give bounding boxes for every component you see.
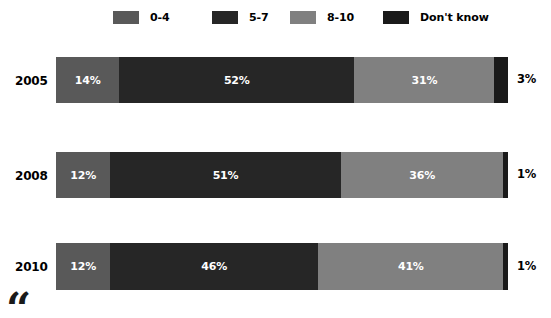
- bar-segment-2010-5-7: 46%: [110, 243, 318, 290]
- bar-segment-2010-8-10: 41%: [318, 243, 503, 290]
- bar-segment-label-outside: 3%: [517, 74, 536, 86]
- bar-track-2008: 12% 51% 36% 1%: [56, 152, 508, 198]
- bar-segment-label: 14%: [75, 75, 101, 86]
- bar-segment-label: 31%: [411, 75, 437, 86]
- bar-segment-2005-5-7: 52%: [119, 57, 354, 103]
- bar-segment-label: 41%: [398, 261, 424, 272]
- bar-track-2010: 12% 46% 41% 1%: [56, 243, 508, 290]
- bar-segment-label-outside: 1%: [517, 261, 536, 273]
- bar-segment-label: 36%: [409, 170, 435, 181]
- bar-row-label-2010: 2010: [15, 260, 48, 274]
- bar-segment-2005-0-4: 14%: [56, 57, 119, 103]
- quotation-mark-icon: “: [6, 288, 31, 318]
- bar-segment-label: 51%: [213, 170, 239, 181]
- bar-segment-label-outside: 1%: [517, 169, 536, 181]
- bar-segment-2008-8-10: 36%: [341, 152, 504, 198]
- bar-segment-label: 46%: [201, 261, 227, 272]
- bar-segment-label: 12%: [70, 261, 96, 272]
- bar-segment-2008-dont-know: 1%: [503, 152, 508, 198]
- stacked-bar-chart: 2005 14% 52% 31% 3% 2008 12% 51%: [0, 0, 551, 318]
- bar-segment-2010-dont-know: 1%: [503, 243, 508, 290]
- bar-segment-label: 12%: [70, 170, 96, 181]
- bar-segment-label: 52%: [224, 75, 250, 86]
- bar-segment-2008-5-7: 51%: [110, 152, 341, 198]
- bar-row-label-2005: 2005: [15, 74, 48, 88]
- bar-segment-2005-dont-know: 3%: [494, 57, 508, 103]
- bar-segment-2005-8-10: 31%: [354, 57, 494, 103]
- bar-track-2005: 14% 52% 31% 3%: [56, 57, 508, 103]
- bar-row-label-2008: 2008: [15, 169, 48, 183]
- bar-segment-2010-0-4: 12%: [56, 243, 110, 290]
- bar-segment-2008-0-4: 12%: [56, 152, 110, 198]
